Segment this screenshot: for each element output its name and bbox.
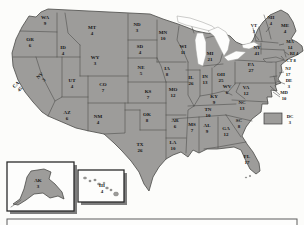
dc-legend-swatch	[264, 113, 282, 124]
state-label-ct: CT 8	[286, 58, 296, 63]
alaska-label: AK	[34, 178, 42, 183]
alaska-inset: AK 3	[7, 162, 77, 214]
state-label-ri: RI 4	[290, 51, 299, 56]
dc-legend: DC 3	[264, 113, 293, 125]
state-label-in: IN13	[202, 74, 208, 85]
caption-box	[7, 219, 297, 225]
leader-line-md-2	[273, 92, 280, 97]
florida-keys	[245, 175, 250, 178]
us-electoral-map: WA9OR6CA45NV3ID4MT4WY3UT4CO7AZ6NM4ND3SD4…	[0, 0, 304, 225]
state-label-il: IL26	[188, 75, 194, 86]
hawaii-label: HI	[99, 183, 105, 188]
state-label-mi: MI21	[207, 51, 214, 62]
state-label-nj: NJ17	[285, 66, 291, 77]
dc-label: DC	[287, 114, 294, 119]
state-label-md: MD10	[280, 90, 288, 101]
hawaii-inset: HI 4	[78, 170, 127, 205]
dc-votes: 3	[289, 120, 292, 125]
electoral-map-figure: WA9OR6CA45NV3ID4MT4WY3UT4CO7AZ6NM4ND3SD4…	[0, 0, 304, 225]
state-label-de: DE3	[286, 78, 292, 89]
